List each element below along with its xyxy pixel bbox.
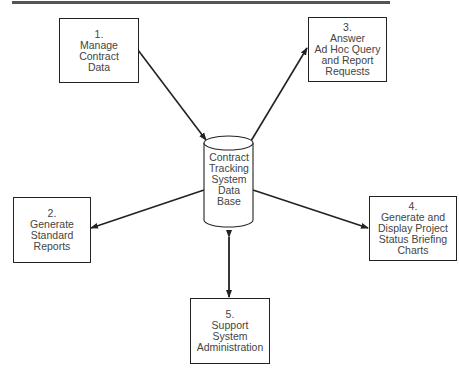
process-label-line: Contract [79,51,119,62]
arrow-db-to-charts [253,190,368,228]
process-label-line: Requests [325,66,369,77]
arrow-db-to-reports [91,190,204,228]
process-label-line: Administration [197,342,264,353]
db-line: Base [204,196,254,207]
process-box-project-status-charts: 4. Generate and Display Project Status B… [369,196,457,261]
process-label-line: Reports [34,241,71,252]
process-label-line: Manage [80,40,118,51]
arrow-db-to-answer [251,48,307,141]
process-label-line: Data [88,62,110,73]
process-box-manage-contract-data: 1. Manage Contract Data [59,18,139,83]
process-box-support-system-administration: 5. Support System Administration [190,298,270,364]
process-box-generate-standard-reports: 2. Generate Standard Reports [13,197,91,263]
database-label: Contract Tracking System Data Base [204,152,254,207]
arrow-manage-to-db [138,50,206,140]
process-number: 1. [95,29,104,40]
process-label-line: Charts [398,245,429,256]
process-box-answer-ad-hoc-query: 3. Answer Ad Hoc Query and Report Reques… [308,17,387,82]
